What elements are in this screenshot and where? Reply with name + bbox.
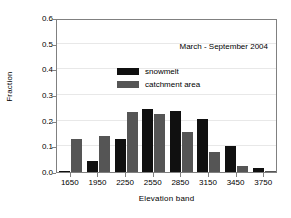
x-tick-mark — [263, 173, 264, 177]
x-tick-mark — [97, 173, 98, 177]
plot-area: March - September 2004 snowmeltcatchment… — [56, 19, 277, 173]
x-tick-mark — [125, 173, 126, 177]
gridline — [57, 94, 276, 95]
bar — [237, 166, 248, 172]
bar — [253, 168, 264, 172]
bar — [265, 171, 276, 172]
y-tick-label: 0.3 — [23, 92, 53, 100]
chart-figure: Fraction March - September 2004 snowmelt… — [0, 0, 291, 218]
x-tick-mark — [180, 173, 181, 177]
bar — [209, 152, 220, 172]
legend-item-label: snowmelt — [145, 68, 179, 76]
gridline — [57, 120, 276, 121]
bar — [225, 146, 236, 172]
gridline — [57, 145, 276, 146]
bar — [170, 111, 181, 172]
x-axis-label: Elevation band — [56, 194, 277, 203]
x-tick-label: 3750 — [243, 178, 283, 187]
y-tick-label: 0.6 — [23, 15, 53, 23]
bar — [59, 171, 70, 172]
bar — [154, 114, 165, 172]
bar — [99, 136, 110, 172]
bar — [87, 161, 98, 172]
y-tick-label: 0.2 — [23, 118, 53, 126]
legend: snowmeltcatchment area — [117, 66, 200, 92]
y-axis-label: Fraction — [0, 0, 18, 173]
y-tick-mark — [52, 45, 56, 46]
y-tick-label: 0.5 — [23, 41, 53, 49]
y-tick-label: 0.0 — [23, 169, 53, 177]
y-tick-mark — [52, 19, 56, 20]
y-tick-label: 0.4 — [23, 66, 53, 74]
y-tick-mark — [52, 147, 56, 148]
chart-annotation: March - September 2004 — [180, 42, 269, 51]
y-tick-mark — [52, 70, 56, 71]
bar — [127, 112, 138, 172]
legend-swatch-icon — [117, 81, 139, 88]
bar — [142, 109, 153, 172]
legend-item-label: catchment area — [145, 81, 200, 89]
x-tick-mark — [70, 173, 71, 177]
bar — [71, 139, 82, 172]
legend-item: catchment area — [117, 79, 200, 90]
y-tick-label: 0.1 — [23, 143, 53, 151]
y-tick-mark — [52, 96, 56, 97]
y-tick-mark — [52, 122, 56, 123]
x-tick-mark — [236, 173, 237, 177]
x-tick-mark — [208, 173, 209, 177]
bar — [115, 139, 126, 172]
y-tick-mark — [52, 173, 56, 174]
legend-item: snowmelt — [117, 66, 200, 77]
legend-swatch-icon — [117, 68, 139, 75]
bar — [197, 119, 208, 172]
y-axis-label-text: Fraction — [5, 71, 14, 102]
x-tick-mark — [153, 173, 154, 177]
bar — [182, 132, 193, 172]
